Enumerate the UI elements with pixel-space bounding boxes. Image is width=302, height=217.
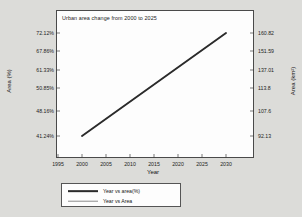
- y-tick-right-1: 92.13: [258, 133, 292, 139]
- legend-item-area-percent: Year vs area(%): [62, 186, 180, 196]
- legend-label-area: Year vs Area: [103, 198, 132, 204]
- x-tick-2030: 2030: [212, 161, 240, 167]
- y-tick-left-3: 50.85%: [20, 85, 54, 91]
- x-axis-ticks: [58, 154, 226, 158]
- x-axis-title: Year: [131, 169, 175, 175]
- y-tick-right-2: 107.6: [258, 108, 292, 114]
- y-axis-left-title: Area (%): [6, 58, 12, 104]
- y-axis-left-ticks: [56, 33, 60, 136]
- chart-legend: Year vs area(%) Year vs Area: [61, 183, 181, 207]
- y-tick-left-5: 67.86%: [20, 48, 54, 54]
- legend-swatch-thick-line-icon: [68, 188, 98, 194]
- y-axis-right-ticks: [250, 33, 254, 136]
- legend-label-area-percent: Year vs area(%): [103, 188, 140, 194]
- y-tick-left-4: 61.33%: [20, 67, 54, 73]
- y-tick-right-5: 151.59: [258, 48, 292, 54]
- y-tick-right-3: 113.8: [258, 85, 292, 91]
- figure-page: Urban area change from 2000 to 2025: [0, 0, 302, 217]
- y-tick-left-6: 72.12%: [20, 30, 54, 36]
- y-tick-right-6: 160.82: [258, 30, 292, 36]
- y-tick-right-4: 137.01: [258, 67, 292, 73]
- legend-swatch-thin-line-icon: [68, 198, 98, 204]
- y-tick-left-1: 41.24%: [20, 133, 54, 139]
- series-line-area-percent: [82, 33, 226, 136]
- legend-item-area: Year vs Area: [62, 196, 180, 206]
- y-axis-right-title: Area (km²): [290, 58, 296, 104]
- y-tick-left-2: 48.16%: [20, 108, 54, 114]
